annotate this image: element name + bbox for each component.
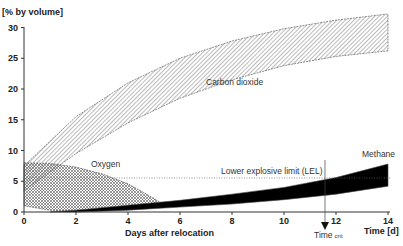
arrow-down-icon — [321, 222, 329, 230]
x-axis-label: Days after relocation — [125, 228, 214, 238]
svg-text:5: 5 — [13, 176, 18, 186]
svg-text:2: 2 — [73, 216, 78, 226]
label-oxygen: Oxygen — [91, 159, 121, 169]
svg-text:0: 0 — [21, 216, 26, 226]
svg-text:0: 0 — [13, 207, 18, 217]
svg-text:8: 8 — [229, 216, 234, 226]
label-lel: Lower explosive limit (LEL) — [221, 166, 323, 176]
svg-text:12: 12 — [331, 216, 341, 226]
svg-text:30: 30 — [8, 23, 18, 33]
label-methane: Methane — [362, 149, 395, 159]
y-axis-label: [% by volume] — [2, 7, 63, 17]
svg-text:20: 20 — [8, 84, 18, 94]
svg-text:25: 25 — [8, 53, 18, 63]
y-ticks: 051015202530 — [8, 23, 24, 218]
x-axis-unit-label: Time [d] — [364, 226, 399, 236]
x-ticks: 02468101214 — [21, 212, 393, 226]
chart: 051015202530 02468101214 [% by volume] D… — [0, 0, 403, 246]
series-carbon-dioxide — [24, 14, 388, 191]
svg-text:10: 10 — [8, 146, 18, 156]
svg-text:4: 4 — [125, 216, 130, 226]
label-carbon-dioxide: Carbon dioxide — [206, 77, 263, 87]
svg-text:15: 15 — [8, 115, 18, 125]
svg-text:10: 10 — [279, 216, 289, 226]
svg-text:6: 6 — [177, 216, 182, 226]
svg-text:14: 14 — [383, 216, 393, 226]
plot-area — [24, 14, 388, 212]
label-time-crit: Timecrit — [314, 230, 343, 240]
